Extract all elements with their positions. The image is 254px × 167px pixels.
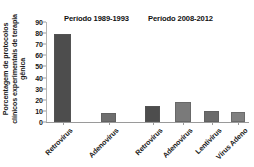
y-axis-title: Porcentagem de protocolos clínicos exper…: [2, 10, 28, 128]
x-tick-mark-5: [238, 122, 239, 125]
x-axis-label-2: Retrovírus: [133, 126, 164, 157]
x-axis-label-0: Retrovírus: [43, 126, 74, 157]
bar-5: [231, 112, 245, 122]
y-tick-mark-10: [43, 110, 46, 111]
y-tick-mark-0: [43, 122, 46, 123]
y-tick-mark-80: [43, 33, 46, 34]
y-tick-mark-60: [43, 55, 46, 56]
y-tick-mark-90: [43, 22, 46, 23]
y-tick-mark-30: [43, 88, 46, 89]
x-tick-mark-0: [63, 122, 64, 125]
x-tick-mark-3: [183, 122, 184, 125]
x-axis-label-3: Adenovírus: [161, 126, 195, 160]
plot-area: 0102030405060708090: [46, 22, 249, 122]
y-axis-title-container: Porcentagem de protocolos clínicos exper…: [0, 0, 28, 140]
y-tick-mark-50: [43, 66, 46, 67]
x-tick-mark-1: [109, 122, 110, 125]
y-tick-mark-40: [43, 77, 46, 78]
bar-1: [101, 113, 116, 122]
y-tick-mark-20: [43, 99, 46, 100]
y-axis-line: [46, 22, 47, 122]
bar-0: [54, 34, 71, 122]
x-tick-mark-4: [212, 122, 213, 125]
bar-3: [175, 102, 191, 122]
bar-chart-figure: Porcentagem de protocolos clínicos exper…: [0, 0, 254, 167]
bar-2: [145, 106, 160, 122]
bar-4: [204, 111, 219, 122]
x-tick-mark-2: [153, 122, 154, 125]
x-axis-label-1: Adenovírus: [86, 126, 120, 160]
y-tick-mark-70: [43, 44, 46, 45]
x-axis-line: [46, 122, 249, 123]
